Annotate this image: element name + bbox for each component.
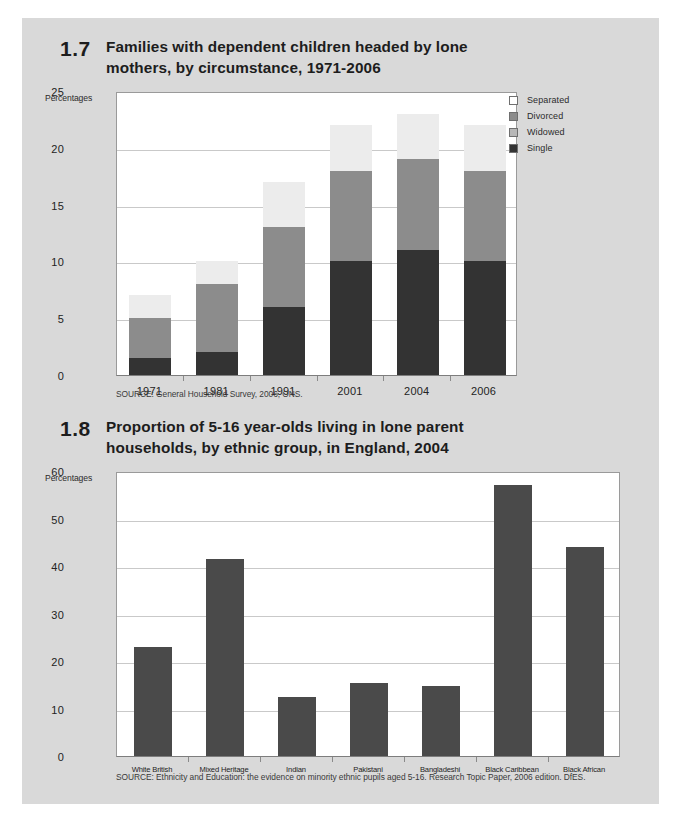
gridline (117, 521, 619, 522)
bar-segment-single (129, 358, 171, 375)
x-axis-tick-label: 2006 (450, 385, 517, 397)
gridline (117, 616, 619, 617)
stacked-bar (129, 295, 171, 375)
legend-label: Single (527, 143, 553, 153)
bar-segment-separated (196, 261, 238, 284)
stacked-bar (397, 114, 439, 375)
bar (422, 686, 459, 756)
bar-segment-divorced (196, 284, 238, 352)
gridline (117, 663, 619, 664)
figure-1-8-number: 1.8 (60, 416, 106, 442)
legend-item[interactable]: Separated (509, 92, 569, 108)
bar-segment-separated (129, 295, 171, 318)
bar-segment-divorced (464, 171, 506, 262)
bar (206, 559, 243, 756)
figure-1-7-source: SOURCE: General Household Survey, 2006, … (116, 389, 303, 399)
bar (350, 683, 387, 756)
legend-swatch-icon (509, 144, 518, 153)
bar-segment-separated (464, 125, 506, 170)
bar-segment-divorced (330, 171, 372, 262)
figure-1-7-plot-area (116, 92, 517, 376)
y-axis-tick-label: 40 (51, 561, 64, 573)
y-axis-tick-label: 30 (51, 609, 64, 621)
legend-item[interactable]: Divorced (509, 108, 569, 124)
figures-panel: 1.7 Families with dependent children hea… (22, 18, 659, 804)
y-axis-tick-label: 0 (58, 751, 64, 763)
y-axis-tick-label: 10 (51, 256, 64, 268)
bar-segment-single (196, 352, 238, 375)
y-axis-tick-label: 10 (51, 704, 64, 716)
x-axis-tick-label: 2001 (317, 385, 384, 397)
figure-1-8-plot-area (116, 472, 620, 757)
x-axis-tick-mark (183, 376, 184, 381)
legend-item[interactable]: Single (509, 140, 569, 156)
figure-1-7-number: 1.7 (60, 36, 106, 62)
x-axis-tick-mark (404, 757, 405, 762)
gridline (117, 320, 516, 321)
legend-label: Widowed (527, 127, 565, 137)
x-axis-tick-mark (450, 376, 451, 381)
x-axis-tick-mark (332, 757, 333, 762)
legend-label: Separated (527, 95, 569, 105)
bar (134, 647, 171, 756)
bar-segment-divorced (129, 318, 171, 358)
gridline (117, 207, 516, 208)
legend-swatch-icon (509, 112, 518, 121)
legend-label: Divorced (527, 111, 563, 121)
x-axis-tick-mark (260, 757, 261, 762)
gridline (117, 568, 619, 569)
bar-segment-divorced (263, 227, 305, 307)
x-axis-tick-mark (250, 376, 251, 381)
y-axis-tick-label: 5 (58, 313, 64, 325)
x-axis-tick-mark (548, 757, 549, 762)
y-axis-tick-label: 25 (51, 86, 64, 98)
legend-swatch-icon (509, 96, 518, 105)
bar-segment-single (330, 261, 372, 375)
figure-1-7-legend: SeparatedDivorcedWidowedSingle (509, 92, 569, 156)
figure-1-8-title: Proportion of 5-16 year-olds living in l… (106, 416, 526, 458)
stacked-bar (263, 182, 305, 375)
bar-segment-single (464, 261, 506, 375)
stacked-bar (196, 261, 238, 375)
x-axis-tick-mark (188, 757, 189, 762)
bar-segment-separated (330, 125, 372, 170)
bar (278, 697, 315, 756)
bar-segment-single (397, 250, 439, 375)
document-page: 1.7 Families with dependent children hea… (0, 0, 681, 820)
y-axis-tick-label: 60 (51, 466, 64, 478)
figure-1-8-heading: 1.8 Proportion of 5-16 year-olds living … (60, 416, 540, 458)
bar-segment-separated (397, 114, 439, 159)
gridline (117, 150, 516, 151)
stacked-bar (330, 125, 372, 375)
y-axis-tick-label: 15 (51, 200, 64, 212)
figure-1-8-source: SOURCE: Ethnicity and Education: the evi… (116, 772, 585, 782)
gridline (117, 263, 516, 264)
figure-1-7-title: Families with dependent children headed … (106, 36, 526, 78)
legend-swatch-icon (509, 128, 518, 137)
legend-item[interactable]: Widowed (509, 124, 569, 140)
bar-segment-divorced (397, 159, 439, 250)
y-axis-tick-label: 20 (51, 656, 64, 668)
bar (566, 547, 603, 756)
figure-1-7-heading: 1.7 Families with dependent children hea… (60, 36, 530, 78)
x-axis-tick-mark (317, 376, 318, 381)
stacked-bar (464, 125, 506, 375)
x-axis-tick-mark (383, 376, 384, 381)
y-axis-tick-label: 20 (51, 143, 64, 155)
y-axis-tick-label: 50 (51, 514, 64, 526)
y-axis-tick-label: 0 (58, 370, 64, 382)
bar (494, 485, 531, 756)
x-axis-tick-mark (476, 757, 477, 762)
bar-segment-separated (263, 182, 305, 227)
x-axis-tick-label: 2004 (383, 385, 450, 397)
bar-segment-single (263, 307, 305, 375)
